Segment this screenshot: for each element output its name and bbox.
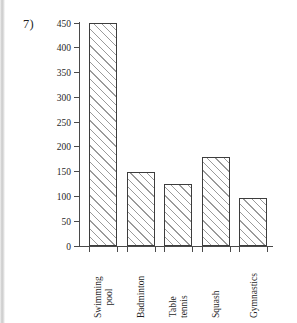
bar [127, 172, 155, 246]
bar [239, 198, 267, 246]
y-axis-tick-mark [74, 23, 79, 24]
x-axis-category-label-line: Gymnastics [249, 273, 259, 318]
y-axis-tick: 250 [74, 122, 79, 123]
x-axis-tick-mark [89, 247, 90, 252]
y-axis-tick-mark [74, 72, 79, 73]
x-axis-category-label-line: tennis [179, 295, 190, 318]
y-axis-tick-label: 300 [57, 93, 71, 104]
y-axis-tick-mark [74, 246, 79, 247]
y-axis-tick-mark [74, 146, 79, 147]
bar [89, 23, 117, 246]
y-axis-tick-mark [74, 122, 79, 123]
y-axis-tick: 0 [74, 246, 79, 247]
y-axis-tick: 300 [74, 97, 79, 98]
x-axis-category-label: Tabletennis [168, 295, 189, 318]
x-axis-category-label-line: Squash [211, 291, 221, 318]
y-axis-tick-mark [74, 221, 79, 222]
x-axis-tick-mark [202, 247, 203, 252]
x-axis-tick-mark [155, 247, 156, 252]
y-axis-tick: 200 [74, 146, 79, 147]
x-axis-category-label-line: Swimming [93, 276, 103, 318]
y-axis-tick: 100 [74, 196, 79, 197]
y-axis-line [79, 22, 80, 247]
x-axis-category-label-line: pool [104, 276, 115, 318]
bar [202, 157, 230, 246]
y-axis-tick-label: 250 [57, 118, 71, 129]
y-axis-tick-label: 350 [57, 68, 71, 79]
x-axis-tick-mark [230, 247, 231, 252]
y-axis-tick-label: 450 [57, 19, 71, 30]
y-axis-tick-mark [74, 97, 79, 98]
x-axis-category-label: Gymnastics [249, 273, 260, 318]
x-axis-tick-mark [239, 247, 240, 252]
y-axis-tick: 400 [74, 47, 79, 48]
x-axis-category-label-line: Table [168, 296, 178, 317]
y-axis-tick-mark [74, 47, 79, 48]
y-axis-tick: 50 [74, 221, 79, 222]
y-axis-tick-label: 150 [57, 167, 71, 178]
y-axis-tick-label: 400 [57, 43, 71, 54]
y-axis-tick: 450 [74, 23, 79, 24]
y-axis-tick-label: 100 [57, 192, 71, 203]
x-axis-category-label: Badminton [136, 276, 147, 318]
y-axis-tick-mark [74, 171, 79, 172]
x-axis-category-label: Swimmingpool [93, 276, 114, 318]
y-axis-tick-label: 0 [66, 242, 71, 253]
y-axis-tick-mark [74, 196, 79, 197]
x-axis-tick-mark [267, 247, 268, 252]
x-axis-tick-mark [192, 247, 193, 252]
x-axis-line [79, 246, 273, 247]
x-axis-category-label: Squash [211, 291, 222, 318]
x-axis-tick-mark [127, 247, 128, 252]
bar [164, 184, 192, 246]
bar-chart: 050100150200250300350400450 Swimmingpool… [0, 0, 297, 323]
y-axis-tick-label: 200 [57, 142, 71, 153]
x-axis-tick-mark [164, 247, 165, 252]
x-axis-tick-mark [117, 247, 118, 252]
y-axis-tick-label: 50 [62, 217, 72, 228]
x-axis-category-label-line: Badminton [136, 276, 146, 318]
y-axis-tick: 350 [74, 72, 79, 73]
y-axis-tick: 150 [74, 171, 79, 172]
